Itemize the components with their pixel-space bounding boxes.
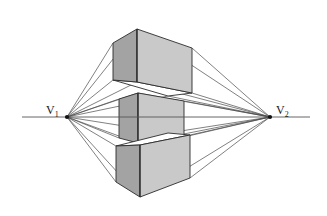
bottom-cube-left-face bbox=[116, 145, 140, 197]
top-cube-right-face bbox=[137, 29, 192, 93]
vanishing-point-v1-marker bbox=[65, 115, 69, 119]
ray-v1-bottom-leftback-top bbox=[67, 117, 116, 146]
ray-v1-top-leftback-top bbox=[67, 43, 113, 117]
top-cube bbox=[113, 29, 192, 96]
diagram-canvas: V1 V2 bbox=[0, 0, 327, 216]
ray-v1-top-leftback-bottom bbox=[67, 80, 113, 117]
vanishing-point-v1-label: V1 bbox=[46, 103, 59, 119]
perspective-diagram: V1 V2 bbox=[0, 0, 327, 216]
bottom-cube-right-face bbox=[140, 135, 190, 197]
middle-cube-left-face bbox=[119, 93, 138, 143]
v2-letter: V bbox=[276, 103, 285, 117]
v1-subscript: 1 bbox=[55, 110, 59, 119]
vanishing-point-v2-marker bbox=[268, 115, 272, 119]
v2-subscript: 2 bbox=[285, 110, 289, 119]
bottom-cube bbox=[116, 133, 190, 197]
vanishing-point-v2-label: V2 bbox=[276, 103, 289, 119]
v1-letter: V bbox=[46, 103, 55, 117]
top-cube-left-face bbox=[113, 29, 137, 82]
